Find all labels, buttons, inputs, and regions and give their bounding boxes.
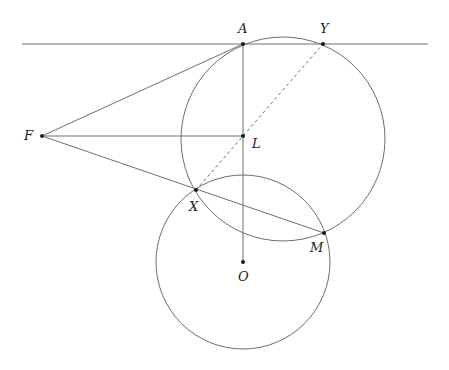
point-A xyxy=(241,42,245,46)
point-F xyxy=(40,134,44,138)
label-F: F xyxy=(24,129,33,142)
segment-FA xyxy=(42,44,243,136)
label-O: O xyxy=(238,270,249,283)
upper-circle xyxy=(181,37,385,241)
label-A: A xyxy=(238,22,247,35)
label-X: X xyxy=(189,200,198,213)
point-M xyxy=(322,231,326,235)
label-L: L xyxy=(252,137,261,150)
label-M: M xyxy=(310,241,323,254)
dashed-segment-XY xyxy=(196,44,323,190)
point-L xyxy=(241,134,245,138)
point-Y xyxy=(321,42,325,46)
label-Y: Y xyxy=(320,22,329,35)
point-O xyxy=(241,260,245,264)
point-X xyxy=(194,188,198,192)
diagram-svg xyxy=(0,0,449,370)
geometry-diagram: A Y F L X M O xyxy=(0,0,449,370)
